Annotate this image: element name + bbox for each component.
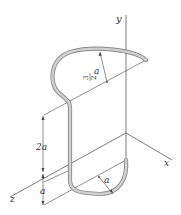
arrowhead bbox=[99, 52, 102, 56]
center-dot bbox=[106, 81, 108, 83]
lower-radius-label: a bbox=[104, 175, 109, 185]
arrowhead bbox=[42, 168, 45, 172]
arrowhead bbox=[42, 174, 45, 178]
wire-3d-diagram: y x z 3 2 a a 2a a bbox=[0, 0, 181, 215]
svg-text:3: 3 bbox=[82, 76, 90, 80]
arrowhead bbox=[42, 201, 45, 205]
upper-radius-arrow bbox=[100, 52, 107, 82]
lower-diameter-line bbox=[44, 160, 126, 205]
upper-radius-var: a bbox=[94, 66, 99, 76]
arrowhead bbox=[42, 116, 45, 120]
center-dot bbox=[98, 176, 100, 178]
x-axis bbox=[126, 133, 172, 160]
y-axis-label: y bbox=[115, 13, 122, 24]
z-axis-label: z bbox=[9, 194, 15, 204]
svg-text:2: 2 bbox=[90, 76, 98, 80]
bottom-offset-label: a bbox=[40, 186, 45, 196]
vertical-span-label: 2a bbox=[35, 142, 47, 152]
x-axis-label: x bbox=[164, 158, 169, 168]
